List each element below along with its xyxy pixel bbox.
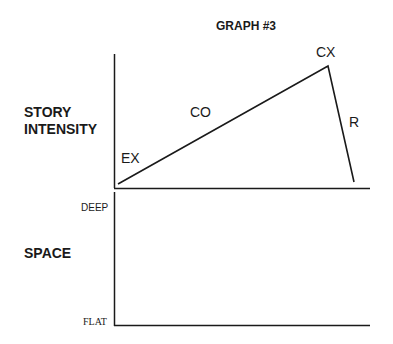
ylabel-line-2: INTENSITY — [24, 121, 97, 138]
graph-title: GRAPH #3 — [216, 19, 276, 33]
label-complication: CO — [190, 104, 211, 120]
ylabel-line-1: STORY — [24, 104, 97, 121]
space-label: SPACE — [24, 245, 71, 262]
flat-tick-label: FLAT — [83, 316, 107, 327]
deep-tick-label: DEEP — [81, 202, 108, 213]
intensity-line — [118, 66, 354, 184]
label-exposition: EX — [121, 150, 140, 166]
label-resolution: R — [349, 114, 359, 130]
label-climax: CX — [316, 44, 335, 60]
story-intensity-label: STORY INTENSITY — [24, 104, 97, 138]
